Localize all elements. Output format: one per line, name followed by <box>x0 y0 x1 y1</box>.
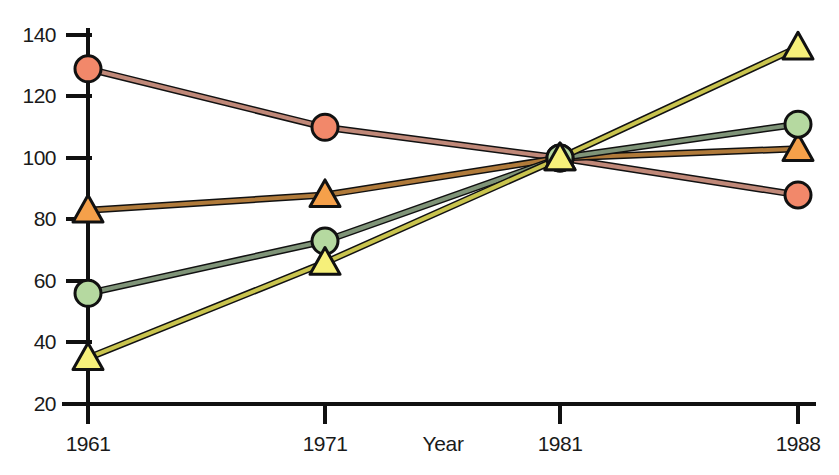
markers-salmon-circle-series <box>75 56 811 208</box>
y-tick-label-80: 80 <box>0 207 56 231</box>
line-chart-plot <box>0 0 839 475</box>
x-tick-label-1961: 1961 <box>66 432 111 456</box>
chart-container: 140 120 100 80 60 40 20 1961 1971 1981 1… <box>0 0 839 475</box>
axis-lines <box>62 28 816 408</box>
data-point-circle <box>785 111 811 137</box>
x-tick-label-1981: 1981 <box>538 432 583 456</box>
data-point-circle <box>312 114 338 140</box>
y-tick-label-60: 60 <box>0 269 56 293</box>
data-point-triangle <box>783 32 813 59</box>
x-tick-label-1988: 1988 <box>776 432 821 456</box>
y-tick-label-120: 120 <box>0 84 56 108</box>
data-point-circle <box>785 182 811 208</box>
x-tick-label-1971: 1971 <box>303 432 348 456</box>
x-axis-ticks <box>88 390 798 424</box>
data-point-circle <box>75 280 101 306</box>
y-tick-label-20: 20 <box>0 392 56 416</box>
series-layer <box>73 32 813 369</box>
x-axis-title: Year <box>422 432 463 456</box>
data-point-circle <box>75 56 101 82</box>
y-tick-label-100: 100 <box>0 146 56 170</box>
y-tick-label-40: 40 <box>0 330 56 354</box>
y-tick-label-140: 140 <box>0 23 56 47</box>
